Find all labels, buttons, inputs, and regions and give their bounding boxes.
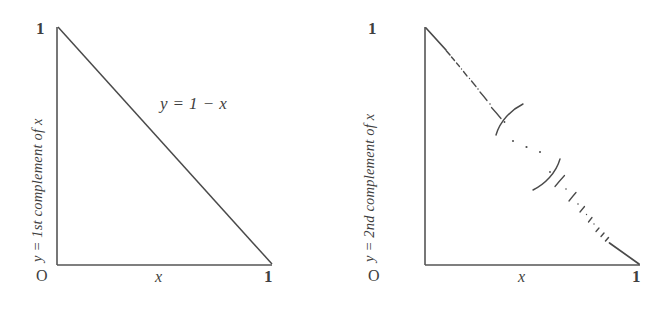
panel-second-complement: 1 O 1 x y = 2nd complement of x bbox=[333, 0, 665, 309]
plot-area-second-complement bbox=[333, 0, 665, 309]
panel-first-complement: 1 O 1 x y = 1st complement of x y = 1 − … bbox=[0, 0, 332, 309]
y-axis-label: y = 1st complement of x bbox=[30, 118, 45, 262]
complement-line bbox=[58, 27, 272, 264]
axes-group bbox=[425, 27, 640, 265]
arc-dot bbox=[593, 223, 594, 224]
origin-label: O bbox=[368, 268, 380, 284]
arc-dot bbox=[539, 151, 541, 153]
arc-dot bbox=[577, 203, 579, 205]
arc-segment bbox=[580, 207, 585, 213]
arc-dot bbox=[565, 188, 567, 190]
arc-segment bbox=[480, 92, 487, 101]
arc-dot bbox=[512, 140, 514, 142]
arc-sequence bbox=[426, 28, 639, 264]
arc-segment-large bbox=[496, 104, 523, 135]
x-max-tick-label: 1 bbox=[264, 268, 273, 285]
arc-segment bbox=[472, 81, 477, 87]
arc-segment bbox=[610, 243, 640, 264]
x-axis-label: x bbox=[518, 269, 525, 285]
arc-dot bbox=[586, 214, 587, 215]
arc-dot bbox=[461, 68, 462, 69]
plot-area-first-complement bbox=[0, 0, 332, 309]
arc-segment bbox=[426, 28, 446, 50]
arc-segment bbox=[606, 238, 609, 242]
arc-segment bbox=[447, 51, 451, 55]
x-axis-label: x bbox=[155, 269, 162, 285]
arc-segment bbox=[464, 72, 468, 77]
figure-row: 1 O 1 x y = 1st complement of x y = 1 − … bbox=[0, 0, 665, 309]
arc-dot-center bbox=[525, 146, 527, 148]
arc-segment bbox=[569, 193, 576, 202]
x-max-tick-label: 1 bbox=[632, 268, 641, 285]
arc-segment bbox=[457, 63, 460, 67]
y-max-tick-label: 1 bbox=[368, 20, 377, 37]
arc-dot bbox=[549, 171, 551, 173]
arc-dot bbox=[469, 78, 470, 79]
origin-label: O bbox=[36, 268, 48, 284]
arc-segment bbox=[452, 57, 455, 61]
equation-label: y = 1 − x bbox=[160, 95, 227, 112]
arc-dot bbox=[489, 103, 491, 105]
arc-segment bbox=[555, 176, 565, 187]
y-axis-label: y = 2nd complement of x bbox=[362, 114, 377, 262]
arc-dot bbox=[504, 121, 506, 123]
arc-segment bbox=[589, 218, 593, 223]
y-max-tick-label: 1 bbox=[36, 20, 45, 37]
arc-dot bbox=[477, 88, 479, 90]
arc-segment bbox=[601, 233, 604, 237]
arc-segment bbox=[492, 108, 502, 119]
arc-segment bbox=[596, 228, 599, 232]
